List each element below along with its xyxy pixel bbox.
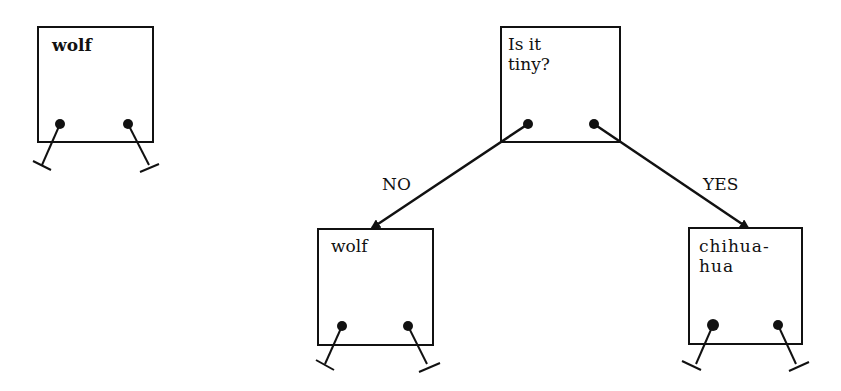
node-label-root: Is it tiny? — [508, 34, 550, 74]
tree-diagram — [0, 0, 841, 391]
edge-label-yes: YES — [703, 174, 738, 194]
node-label-yes-child: chihua- hua — [699, 236, 770, 276]
edge-label-no: NO — [382, 174, 411, 194]
node-label-standalone-wolf: wolf — [52, 35, 92, 55]
node-label-no-child: wolf — [331, 236, 368, 256]
